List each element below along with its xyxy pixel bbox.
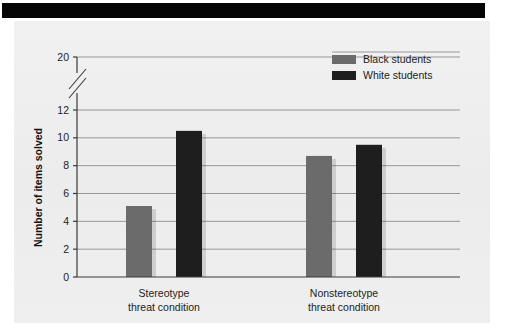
y-tick-label: 10 [57, 131, 69, 143]
bar-shadow [152, 209, 156, 277]
y-axis-title-text: Number of items solved [32, 128, 44, 247]
y-axis [69, 57, 86, 277]
category-label: Stereotype [139, 287, 190, 299]
legend: Black studentsWhite students [332, 52, 460, 81]
y-tick-label: 8 [63, 159, 69, 171]
y-tick-label: 0 [63, 271, 69, 283]
bars [126, 131, 386, 277]
y-tick-label: 6 [63, 187, 69, 199]
y-axis-title: Number of items solved [32, 128, 44, 247]
category-label: threat condition [128, 301, 200, 313]
y-tick-label: 20 [57, 51, 69, 63]
y-tick-label: 4 [63, 215, 69, 227]
bar-chart: 02468101220 Stereotypethreat conditionNo… [14, 21, 490, 323]
legend-label: Black students [363, 53, 431, 65]
bar [176, 131, 202, 277]
y-tick-label: 12 [57, 104, 69, 116]
y-tick-label: 2 [63, 243, 69, 255]
bar-shadow [332, 159, 336, 277]
bar [356, 145, 382, 277]
bar [306, 156, 332, 277]
bar-shadow [202, 134, 206, 277]
y-tick-labels: 02468101220 [57, 51, 77, 283]
legend-label: White students [363, 69, 432, 81]
legend-swatch [332, 55, 356, 64]
top-black-banner [2, 3, 485, 18]
category-labels: Stereotypethreat conditionNonstereotypet… [128, 287, 380, 313]
chart-plot-area: 02468101220 Stereotypethreat conditionNo… [14, 21, 490, 323]
legend-swatch [332, 71, 356, 80]
bar-shadow [382, 148, 386, 277]
figure-panel: 02468101220 Stereotypethreat conditionNo… [14, 21, 490, 323]
bar [126, 206, 152, 277]
category-label: threat condition [308, 301, 380, 313]
category-label: Nonstereotype [310, 287, 378, 299]
